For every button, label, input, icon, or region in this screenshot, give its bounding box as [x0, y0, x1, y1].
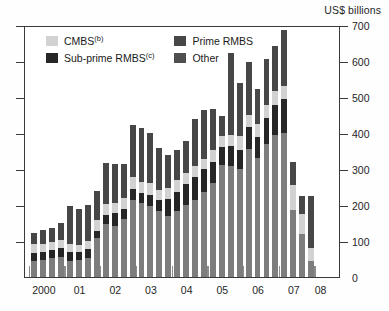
bar [103, 163, 109, 277]
bar [165, 155, 171, 277]
bar [139, 128, 145, 277]
bar-segment-other [58, 223, 64, 240]
y-axis-tick-right [340, 98, 348, 99]
bar-segment-other [103, 163, 109, 204]
bar-segment-cmbs [281, 86, 287, 99]
bar-segment-cmbs [290, 185, 296, 210]
bar [210, 109, 216, 277]
y-axis-tick-label: 500 [352, 92, 370, 104]
bar-segment-cmbs [147, 183, 153, 195]
bar-segment-other [67, 206, 73, 244]
bar [281, 30, 287, 277]
x-axis-group-separator [172, 266, 173, 277]
y-axis-tick-left [16, 98, 24, 99]
bar [201, 110, 207, 277]
bar-segment-prime [121, 219, 127, 277]
bar-segment-prime [165, 216, 171, 277]
bar-segment-other [192, 119, 198, 166]
bar-segment-cmbs [272, 91, 278, 105]
bar-segment-sub [281, 99, 287, 133]
bar-segment-cmbs [165, 188, 171, 199]
y-axis-tick-label: 700 [352, 20, 370, 32]
bar-segment-prime [76, 260, 82, 277]
bar-segment-sub [121, 209, 127, 220]
bars-layer [25, 27, 339, 277]
bar-segment-prime [192, 200, 198, 277]
bar-segment-cmbs [255, 124, 261, 138]
bar-segment-prime [40, 260, 46, 277]
bar-segment-sub [130, 189, 136, 200]
bar [76, 209, 82, 277]
bar-segment-prime [308, 261, 314, 277]
bar-segment-cmbs [49, 242, 55, 250]
bar-segment-prime [201, 192, 207, 277]
bar-segment-sub [174, 192, 180, 212]
legend-label-sub: Sub-prime RMBS(c) [64, 53, 154, 64]
x-axis-tick-label: 07 [288, 284, 300, 296]
x-axis-tick-label: 2000 [32, 284, 55, 296]
bar-segment-cmbs [130, 177, 136, 189]
bar-segment-prime [299, 234, 305, 277]
bar [49, 228, 55, 277]
bar-segment-prime [246, 149, 252, 277]
bar-segment-prime [67, 261, 73, 277]
y-axis-tick-left [16, 206, 24, 207]
bar [147, 133, 153, 277]
x-axis-group-separator [243, 266, 244, 277]
y-axis-tick-label: 0 [352, 272, 358, 284]
x-axis-tick-label: 02 [109, 284, 121, 296]
bar-segment-other [94, 191, 100, 220]
bar-segment-sub [67, 252, 73, 261]
bar [31, 233, 37, 277]
bar-segment-other [49, 228, 55, 241]
bar [255, 89, 261, 277]
legend-swatch-cmbs [46, 36, 58, 46]
bar-segment-prime [31, 261, 37, 277]
y-axis-tick-label: 600 [352, 56, 370, 68]
bar [156, 148, 162, 277]
bar-segment-other [201, 110, 207, 159]
bar-segment-prime [272, 135, 278, 277]
bar-segment-other [121, 164, 127, 198]
bar [40, 230, 46, 277]
bar-segment-sub [210, 162, 216, 184]
y-axis-tick-right [340, 206, 348, 207]
bar-segment-cmbs [67, 244, 73, 252]
bar [67, 206, 73, 277]
y-axis-tick-left [16, 26, 24, 27]
bar-segment-other [147, 133, 153, 183]
x-axis-group-separator [29, 266, 30, 277]
cmbs-rmbs-issuance-chart: US$ billions CMBS(b)Prime RMBSSub-prime … [0, 0, 389, 311]
legend-label-other: Other [192, 53, 218, 64]
bar-segment-sub [76, 252, 82, 260]
bar-segment-sub [272, 105, 278, 135]
y-axis-tick-left [16, 134, 24, 135]
bar-segment-cmbs [156, 190, 162, 200]
y-axis-tick-right [340, 170, 348, 171]
bar-segment-other [40, 230, 46, 244]
legend-swatch-other [174, 53, 186, 63]
bar-segment-other [156, 148, 162, 189]
x-axis-tick-label: 01 [74, 284, 86, 296]
bar-segment-sub [165, 199, 171, 216]
bar [58, 223, 64, 277]
bar-segment-cmbs [174, 180, 180, 192]
legend-swatch-prime [174, 36, 186, 46]
bar-segment-prime [49, 258, 55, 277]
y-axis-tick-label: 400 [352, 128, 370, 140]
bar-segment-cmbs [228, 135, 234, 147]
bar [192, 119, 198, 277]
bar-segment-sub [58, 248, 64, 257]
bar-segment-prime [112, 226, 118, 277]
y-axis-tick-label: 100 [352, 236, 370, 248]
bar-segment-sub [31, 253, 37, 261]
bar [130, 125, 136, 277]
bar-segment-prime [183, 205, 189, 277]
bar-segment-cmbs [264, 105, 270, 118]
x-axis-group-separator [314, 266, 315, 277]
bar-segment-cmbs [299, 214, 305, 234]
bar-segment-other [228, 53, 234, 135]
bar-segment-other [210, 109, 216, 150]
bar-segment-sub [139, 193, 145, 203]
bar-segment-sub [49, 250, 55, 259]
